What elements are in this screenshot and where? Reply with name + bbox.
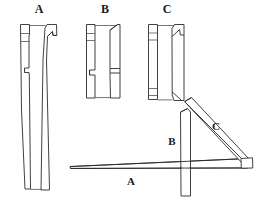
assembly-view: A B C [70, 98, 253, 197]
assembly-label-b: B [168, 135, 176, 147]
part-b-group: B [87, 2, 121, 98]
part-label-a: A [35, 2, 44, 16]
part-a-edge-view [21, 25, 31, 190]
part-c-group: C [149, 2, 185, 101]
assembly-foot-pad [241, 158, 253, 168]
part-c-face-view [158, 25, 184, 101]
part-b-edge-view [87, 25, 96, 99]
part-c-edge-view [149, 25, 158, 100]
part-a-face-view [30, 25, 57, 191]
part-b-face-view [95, 25, 120, 99]
assembly-label-c: C [212, 120, 220, 132]
drawing-canvas: A B [0, 0, 260, 202]
part-a-group: A [21, 2, 57, 190]
part-label-c: C [163, 2, 172, 16]
part-label-b: B [101, 2, 109, 16]
technical-drawing-page: A B [0, 0, 260, 202]
assembly-post-b [181, 109, 191, 197]
assembly-label-a: A [127, 175, 135, 187]
